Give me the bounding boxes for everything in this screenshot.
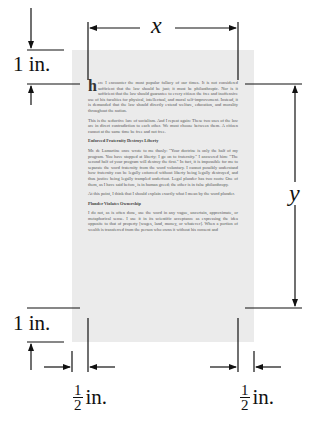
width-label-x: x <box>151 12 162 39</box>
bottom-margin-label: 1 in. <box>13 311 50 336</box>
right-margin-label: 12 in. <box>240 383 274 412</box>
height-label-y: y <box>289 180 300 207</box>
top-margin-label: 1 in. <box>13 52 50 77</box>
left-margin-label: 12 in. <box>73 383 107 412</box>
